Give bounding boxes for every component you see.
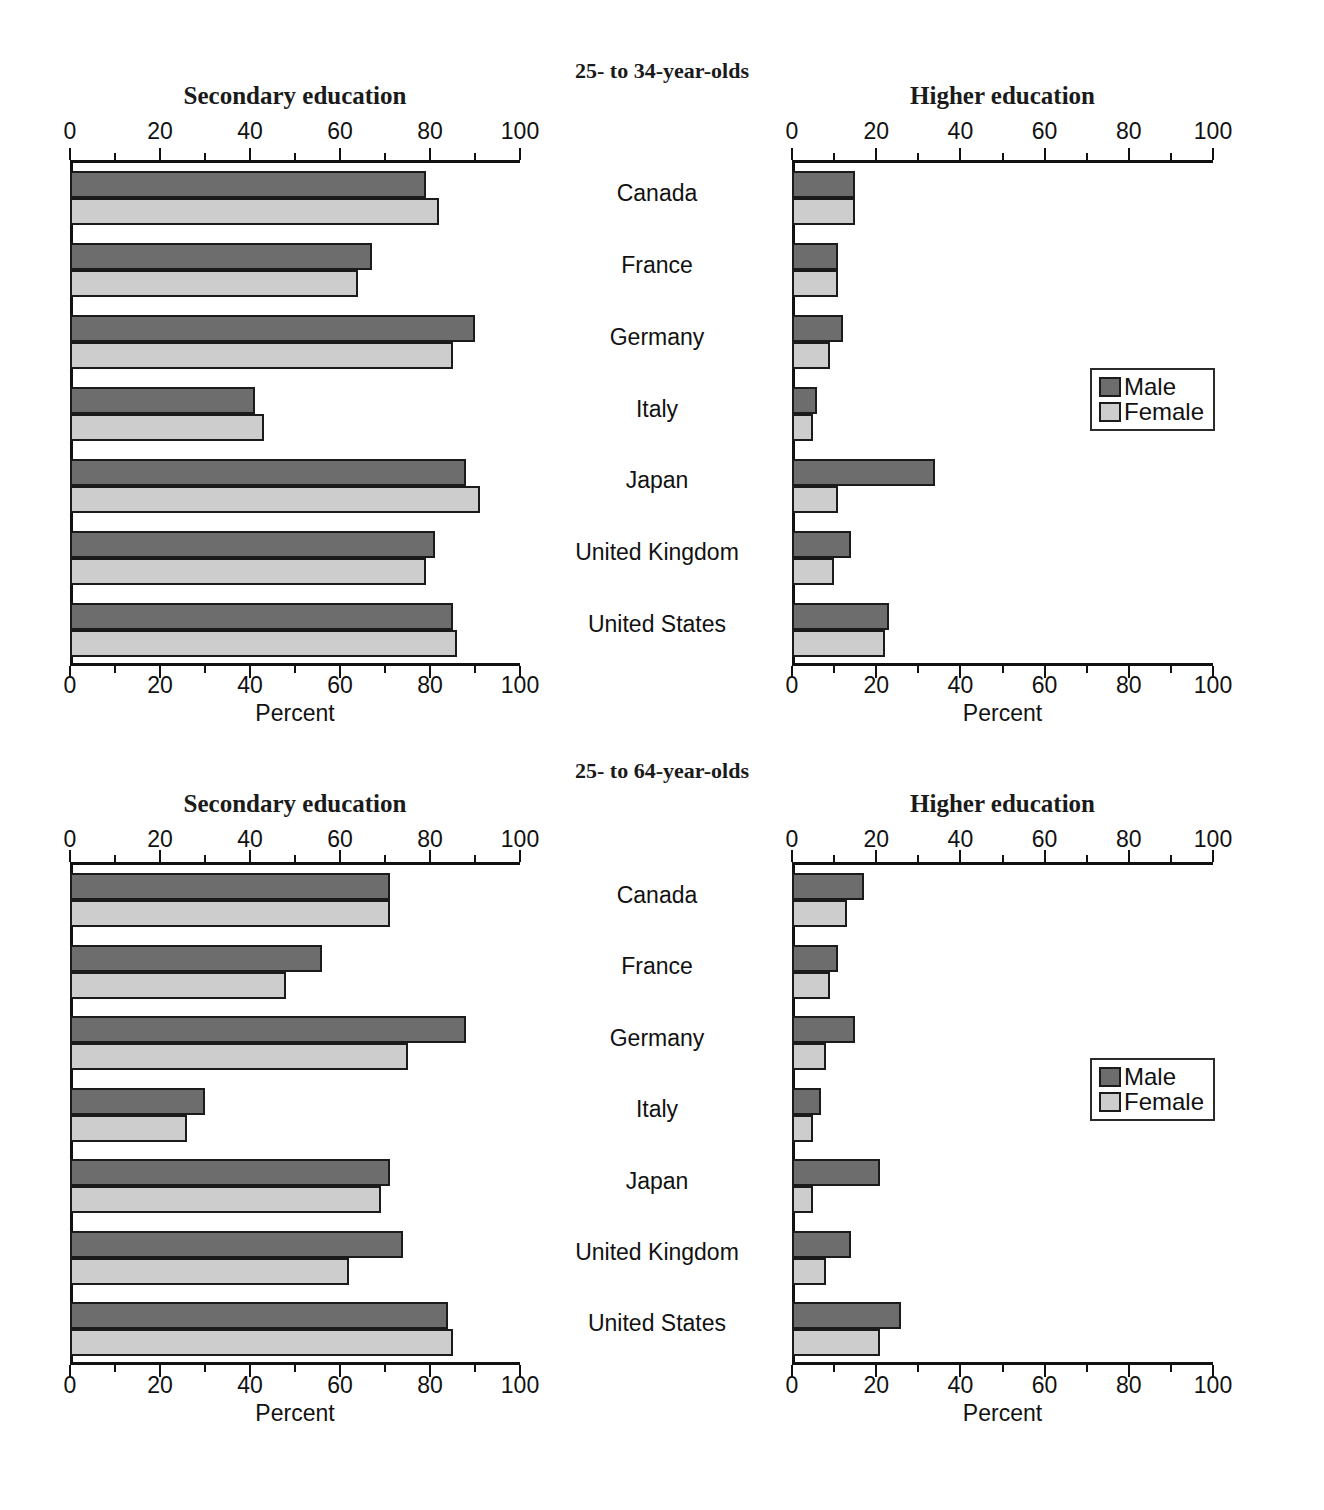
category-united-states-label: United States xyxy=(588,1310,726,1337)
category-france-label: France xyxy=(621,953,693,980)
category-germany-label: Germany xyxy=(610,1024,705,1051)
category-italy-label: Italy xyxy=(636,1096,678,1123)
category-labels-25-64: CanadaFranceGermanyItalyJapanUnited King… xyxy=(0,0,1324,1510)
category-japan-label: Japan xyxy=(626,1167,689,1194)
category-canada-label: Canada xyxy=(617,881,698,908)
category-united-kingdom-label: United Kingdom xyxy=(575,1239,739,1266)
